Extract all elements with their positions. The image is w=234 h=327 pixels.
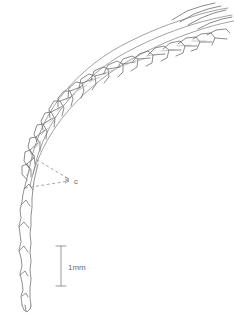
nerve-1	[26, 169, 31, 176]
leaf-16	[178, 37, 200, 51]
leaf-17-tip	[215, 38, 227, 39]
callout-leader-upper	[32, 157, 69, 179]
callout-leader-lower	[25, 181, 69, 188]
stem-notch-1	[22, 293, 28, 297]
leaf-8	[68, 82, 84, 98]
nerve-7	[66, 94, 75, 100]
outer-smooth-sweep	[30, 21, 234, 186]
lower-stem-group	[19, 164, 38, 312]
line-drawing-svg: c 1mm	[0, 0, 234, 327]
leaf-18	[207, 29, 230, 35]
stem-notch-3	[19, 246, 28, 252]
stem-base-hair	[25, 305, 26, 311]
stem-right-contour	[30, 164, 38, 306]
stem-notch-4	[19, 222, 29, 228]
nerve-14	[161, 50, 175, 51]
stem-notch-2	[20, 271, 28, 276]
scale-bar-label: 1mm	[68, 263, 86, 272]
leaf-17	[193, 33, 215, 45]
scale-bar-group: 1mm	[56, 246, 86, 286]
stem-base-fork	[22, 305, 31, 312]
leaf-4-tip	[43, 118, 53, 124]
leaf-9	[79, 74, 96, 90]
leaf-9-tip	[95, 73, 106, 76]
figure-canvas: c 1mm	[0, 0, 234, 327]
axis-group	[29, 8, 234, 186]
leaf-15	[163, 41, 185, 56]
callout-label-c: c	[74, 177, 78, 186]
stem-left-contour	[19, 170, 29, 305]
leaf-22	[172, 3, 215, 20]
axis-midline	[29, 8, 228, 170]
